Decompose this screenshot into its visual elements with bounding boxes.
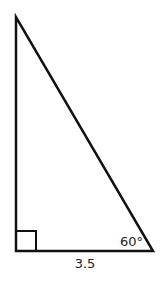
angle-label: 60° <box>120 234 143 249</box>
right-triangle <box>16 17 153 251</box>
right-angle-marker <box>16 231 36 251</box>
triangle-diagram: 60° 3.5 <box>0 0 164 283</box>
base-length-label: 3.5 <box>75 256 96 271</box>
